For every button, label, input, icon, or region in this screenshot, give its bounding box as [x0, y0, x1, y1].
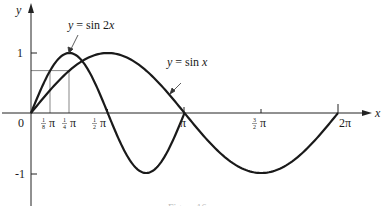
svg-text:3: 3	[253, 117, 256, 123]
origin-label: 0	[18, 116, 24, 130]
svg-text:π: π	[260, 116, 266, 130]
annotation-sin-x: y = sin x	[166, 55, 208, 69]
svg-text:8: 8	[42, 124, 45, 130]
x-axis-label: x	[374, 106, 381, 120]
x-tick-label-quarter-pi: 1 4 π	[62, 116, 76, 130]
svg-text:2: 2	[253, 124, 256, 130]
annotation-sin-2x: y = sin 2x	[67, 18, 115, 32]
svg-text:π: π	[49, 116, 55, 130]
svg-text:2: 2	[93, 124, 96, 130]
x-axis-arrow-icon	[362, 110, 372, 116]
svg-text:4: 4	[63, 124, 66, 130]
svg-text:1: 1	[42, 117, 45, 123]
figure-caption: Figure 16	[168, 202, 207, 206]
svg-text:π: π	[70, 116, 76, 130]
x-tick-label-half-pi: 1 2 π	[92, 116, 106, 130]
svg-text:1: 1	[93, 117, 96, 123]
x-tick-label-pi: π	[180, 116, 186, 130]
x-tick-label-three-half-pi: 3 2 π	[252, 116, 266, 130]
y-tick-label-neg1: -1	[15, 167, 25, 181]
y-tick-label-1: 1	[17, 46, 23, 60]
svg-text:π: π	[100, 116, 106, 130]
y-axis-label: y	[15, 3, 22, 17]
axes	[2, 10, 366, 206]
sine-chart: y x 0 1 -1 1 8 π 1 4 π 1 2 π π 3 2 π 2π …	[0, 0, 384, 206]
svg-text:1: 1	[63, 117, 66, 123]
x-tick-label-eighth-pi: 1 8 π	[41, 116, 55, 130]
x-tick-label-two-pi: 2π	[339, 116, 351, 130]
y-axis-arrow-icon	[28, 3, 34, 13]
